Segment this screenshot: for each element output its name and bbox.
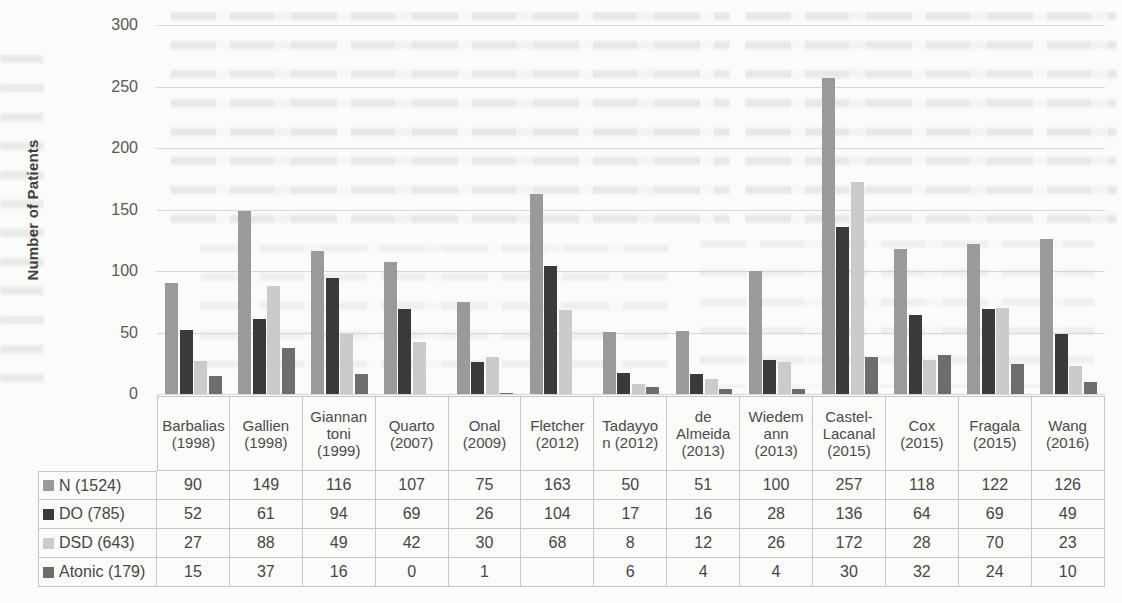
table-header-line: Giannan bbox=[310, 408, 367, 425]
chart-bar bbox=[851, 182, 864, 394]
table-value-cell: 75 bbox=[449, 471, 522, 500]
y-tick-label: 200 bbox=[111, 139, 138, 157]
table-value-cell: 136 bbox=[813, 500, 886, 529]
table-header-line: (2013) bbox=[682, 442, 725, 459]
chart-bar bbox=[719, 389, 732, 394]
chart-bar bbox=[1069, 366, 1082, 394]
y-tick-label: 150 bbox=[111, 201, 138, 219]
table-value-cell bbox=[521, 558, 594, 587]
table-value-cell: 8 bbox=[594, 529, 667, 558]
chart-bar bbox=[457, 302, 470, 394]
table-value-cell: 64 bbox=[886, 500, 959, 529]
chart-bar bbox=[938, 355, 951, 394]
chart-bar bbox=[384, 262, 397, 394]
chart-bar bbox=[238, 211, 251, 394]
table-header-cell: Wang(2016) bbox=[1032, 396, 1105, 471]
table-value-cell: 4 bbox=[740, 558, 813, 587]
table-value-cell: 100 bbox=[740, 471, 813, 500]
chart-bar bbox=[967, 244, 980, 394]
table-value-cell: 27 bbox=[157, 529, 230, 558]
legend-swatch bbox=[43, 480, 54, 491]
legend-swatch bbox=[43, 567, 54, 578]
table-header-cell: Giannantoni(1999) bbox=[303, 396, 376, 471]
chart-bar bbox=[836, 227, 849, 394]
chart-bar bbox=[1011, 364, 1024, 394]
chart-bar bbox=[180, 330, 193, 394]
table-value-cell: 32 bbox=[886, 558, 959, 587]
chart-bar bbox=[909, 315, 922, 394]
legend-swatch bbox=[43, 509, 54, 520]
table-value-cell: 90 bbox=[157, 471, 230, 500]
table-header-line: (2015) bbox=[973, 434, 1016, 451]
table-header-cell: Gallien(1998) bbox=[230, 396, 303, 471]
table-value-cell: 50 bbox=[594, 471, 667, 500]
table-value-cell: 149 bbox=[230, 471, 303, 500]
chart-data-table: Barbalias(1998)Gallien(1998)Giannantoni(… bbox=[38, 396, 1105, 587]
gridline bbox=[157, 271, 1105, 272]
chart-bar bbox=[705, 379, 718, 394]
table-value-cell: 68 bbox=[521, 529, 594, 558]
table-corner-cell bbox=[38, 396, 157, 471]
legend-cell: DSD (643) bbox=[38, 529, 157, 558]
table-header-line: (2015) bbox=[827, 442, 870, 459]
table-value-cell: 16 bbox=[667, 500, 740, 529]
table-header-line: Quarto bbox=[389, 417, 435, 434]
y-tick-label: 250 bbox=[111, 78, 138, 96]
chart-bar bbox=[267, 286, 280, 394]
chart-bar bbox=[822, 78, 835, 394]
chart-bar bbox=[413, 342, 426, 394]
table-header-line: (2015) bbox=[900, 434, 943, 451]
chart-bar bbox=[530, 194, 543, 394]
table-value-cell: 0 bbox=[376, 558, 449, 587]
table-header-line: Tadayyo bbox=[602, 417, 658, 434]
gridline bbox=[157, 87, 1105, 88]
chart-bar bbox=[1055, 334, 1068, 394]
table-header-line: Onal bbox=[469, 417, 501, 434]
chart-bar bbox=[326, 278, 339, 394]
chart-bar bbox=[646, 387, 659, 394]
table-value-cell: 163 bbox=[521, 471, 594, 500]
chart-bar bbox=[982, 309, 995, 394]
chart-bar bbox=[253, 319, 266, 394]
table-value-cell: 17 bbox=[594, 500, 667, 529]
chart-bar bbox=[282, 348, 295, 394]
chart-bar bbox=[355, 374, 368, 394]
chart-bar bbox=[996, 308, 1009, 394]
table-value-cell: 26 bbox=[449, 500, 522, 529]
gridline bbox=[157, 394, 1105, 395]
table-header-line: de bbox=[695, 408, 712, 425]
gridline bbox=[157, 25, 1105, 26]
chart-bar bbox=[1040, 239, 1053, 394]
chart-bar bbox=[559, 310, 572, 394]
table-value-cell: 10 bbox=[1032, 558, 1105, 587]
legend-cell: Atonic (179) bbox=[38, 558, 157, 587]
chart-bar bbox=[778, 362, 791, 394]
chart-bar bbox=[165, 283, 178, 394]
table-value-cell: 257 bbox=[813, 471, 886, 500]
y-tick-label: 0 bbox=[129, 385, 138, 403]
legend-swatch bbox=[43, 538, 54, 549]
table-header-cell: Onal(2009) bbox=[449, 396, 522, 471]
plot-area bbox=[157, 25, 1105, 394]
table-header-cell: Fragala(2015) bbox=[959, 396, 1032, 471]
table-value-cell: 23 bbox=[1032, 529, 1105, 558]
table-header-line: Wang bbox=[1048, 417, 1087, 434]
table-header-line: Castel- bbox=[825, 408, 873, 425]
y-axis-title: Number of Patients bbox=[24, 139, 41, 280]
table-value-cell: 24 bbox=[959, 558, 1032, 587]
chart-bar bbox=[632, 384, 645, 394]
table-value-cell: 61 bbox=[230, 500, 303, 529]
chart-bar bbox=[486, 357, 499, 394]
legend-label: N (1524) bbox=[59, 477, 121, 495]
table-value-cell: 116 bbox=[303, 471, 376, 500]
table-value-cell: 69 bbox=[376, 500, 449, 529]
legend-label: DSD (643) bbox=[59, 534, 135, 552]
table-header-line: (2007) bbox=[390, 434, 433, 451]
chart-bar bbox=[690, 374, 703, 394]
chart-bar bbox=[311, 251, 324, 394]
table-value-cell: 172 bbox=[813, 529, 886, 558]
chart-bar bbox=[340, 334, 353, 394]
legend-cell: N (1524) bbox=[38, 471, 157, 500]
table-header-line: Gallien bbox=[242, 417, 289, 434]
table-value-cell: 15 bbox=[157, 558, 230, 587]
